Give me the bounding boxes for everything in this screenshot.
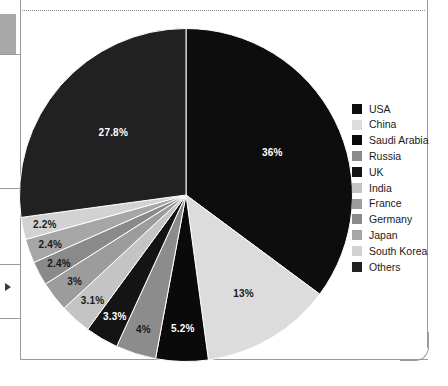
legend-swatch-icon	[352, 183, 362, 193]
pie-slice-label: 27.8%	[99, 126, 128, 137]
legend-item-others[interactable]: Others	[352, 259, 429, 275]
legend-item-russia[interactable]: Russia	[352, 148, 429, 164]
pie-slice-label: 3%	[67, 275, 82, 286]
pie-slice-label: 3.3%	[103, 311, 127, 322]
legend-swatch-icon	[352, 151, 362, 161]
legend-item-label: Russia	[369, 151, 401, 162]
legend-item-label: South Korea	[369, 246, 427, 257]
legend-item-france[interactable]: France	[352, 196, 429, 212]
legend-swatch-icon	[352, 214, 362, 224]
pie-slice-label: 2.4%	[39, 238, 63, 249]
legend-swatch-icon	[352, 262, 362, 272]
legend-item-label: Germany	[369, 214, 412, 225]
pie-chart-svg	[19, 28, 353, 362]
legend-swatch-icon	[352, 167, 362, 177]
legend-item-label: Saudi Arabia	[369, 135, 429, 146]
legend-item-label: Others	[369, 262, 401, 273]
legend-item-uk[interactable]: UK	[352, 164, 429, 180]
legend-item-label: UK	[369, 167, 384, 178]
legend-swatch-icon	[352, 120, 362, 130]
legend-item-saudi-arabia[interactable]: Saudi Arabia	[352, 133, 429, 149]
legend-swatch-icon	[352, 230, 362, 240]
legend-item-china[interactable]: China	[352, 117, 429, 133]
legend-item-label: China	[369, 119, 396, 130]
pie-slice[interactable]	[19, 29, 186, 218]
legend-item-japan[interactable]: Japan	[352, 227, 429, 243]
pie-slice-label: 13%	[233, 287, 254, 298]
legend-item-south-korea[interactable]: South Korea	[352, 243, 429, 259]
legend-item-label: France	[369, 198, 402, 209]
legend-swatch-icon	[352, 199, 362, 209]
pie-slice-label: 5.2%	[171, 323, 195, 334]
legend-item-label: Japan	[369, 230, 398, 241]
legend-swatch-icon	[352, 246, 362, 256]
pie-slice-label: 4%	[136, 324, 151, 335]
pie-slice-label: 36%	[262, 146, 283, 157]
chart-legend: USAChinaSaudi ArabiaRussiaUKIndiaFranceG…	[352, 101, 429, 275]
legend-item-india[interactable]: India	[352, 180, 429, 196]
legend-item-germany[interactable]: Germany	[352, 212, 429, 228]
legend-item-label: USA	[369, 104, 391, 115]
legend-swatch-icon	[352, 135, 362, 145]
pie-slice-group	[19, 29, 352, 362]
legend-item-label: India	[369, 183, 392, 194]
legend-item-usa[interactable]: USA	[352, 101, 429, 117]
pie-slice-label: 2.4%	[47, 257, 71, 268]
pie-slice-label: 2.2%	[33, 219, 57, 230]
legend-swatch-icon	[352, 104, 362, 114]
page-canvas: 36%13%5.2%4%3.3%3.1%3%2.4%2.4%2.2%27.8% …	[0, 0, 448, 386]
pie-slice-label: 3.1%	[81, 295, 105, 306]
